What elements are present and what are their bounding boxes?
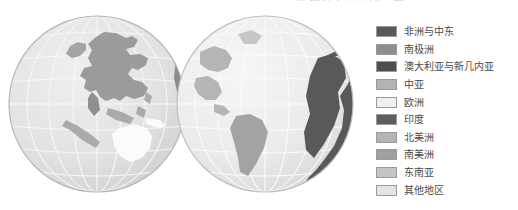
legend-item[interactable]: 非洲与中东 <box>376 23 494 41</box>
legend-item-label: 南美洲 <box>404 149 434 160</box>
legend-item[interactable]: 其他地区 <box>376 181 494 199</box>
legend-color-swatch <box>376 114 397 125</box>
legend-item-label: 中亚 <box>404 79 424 90</box>
globe-illustration <box>0 0 368 210</box>
legend-color-swatch <box>376 185 397 196</box>
legend-item-label: 北美洲 <box>404 132 434 143</box>
right-globe-group <box>177 16 353 192</box>
legend-color-swatch <box>376 79 397 90</box>
legend-color-swatch <box>376 61 397 72</box>
legend-item[interactable]: 印度 <box>376 111 494 129</box>
globes-svg <box>0 0 368 210</box>
legend-color-swatch <box>376 167 397 178</box>
legend-item-label: 其他地区 <box>404 185 444 196</box>
legend-item[interactable]: 东南亚 <box>376 164 494 182</box>
legend-color-swatch <box>376 132 397 143</box>
legend-color-swatch <box>376 26 397 37</box>
legend-color-swatch <box>376 97 397 108</box>
legend-item-label: 南极洲 <box>404 44 434 55</box>
legend-item-label: 欧洲 <box>404 97 424 108</box>
legend-color-swatch <box>376 149 397 160</box>
region-legend: 非洲与中东南极洲澳大利亚与新几内亚中亚欧洲印度北美洲南美洲东南亚其他地区 <box>376 23 494 199</box>
legend-item[interactable]: 北美洲 <box>376 129 494 147</box>
legend-item-label: 印度 <box>404 114 424 125</box>
left-globe-group <box>9 16 185 192</box>
legend-item[interactable]: 南美洲 <box>376 146 494 164</box>
legend-color-swatch <box>376 44 397 55</box>
legend-item[interactable]: 中亚 <box>376 76 494 94</box>
legend-item-label: 非洲与中东 <box>404 26 454 37</box>
legend-item-label: 澳大利亚与新几内亚 <box>404 61 494 72</box>
legend-item[interactable]: 澳大利亚与新几内亚 <box>376 58 494 76</box>
legend-item[interactable]: 欧洲 <box>376 93 494 111</box>
figure-canvas: 各地区人口占比示意 <box>0 0 518 210</box>
legend-item-label: 东南亚 <box>404 167 434 178</box>
legend-item[interactable]: 南极洲 <box>376 41 494 59</box>
